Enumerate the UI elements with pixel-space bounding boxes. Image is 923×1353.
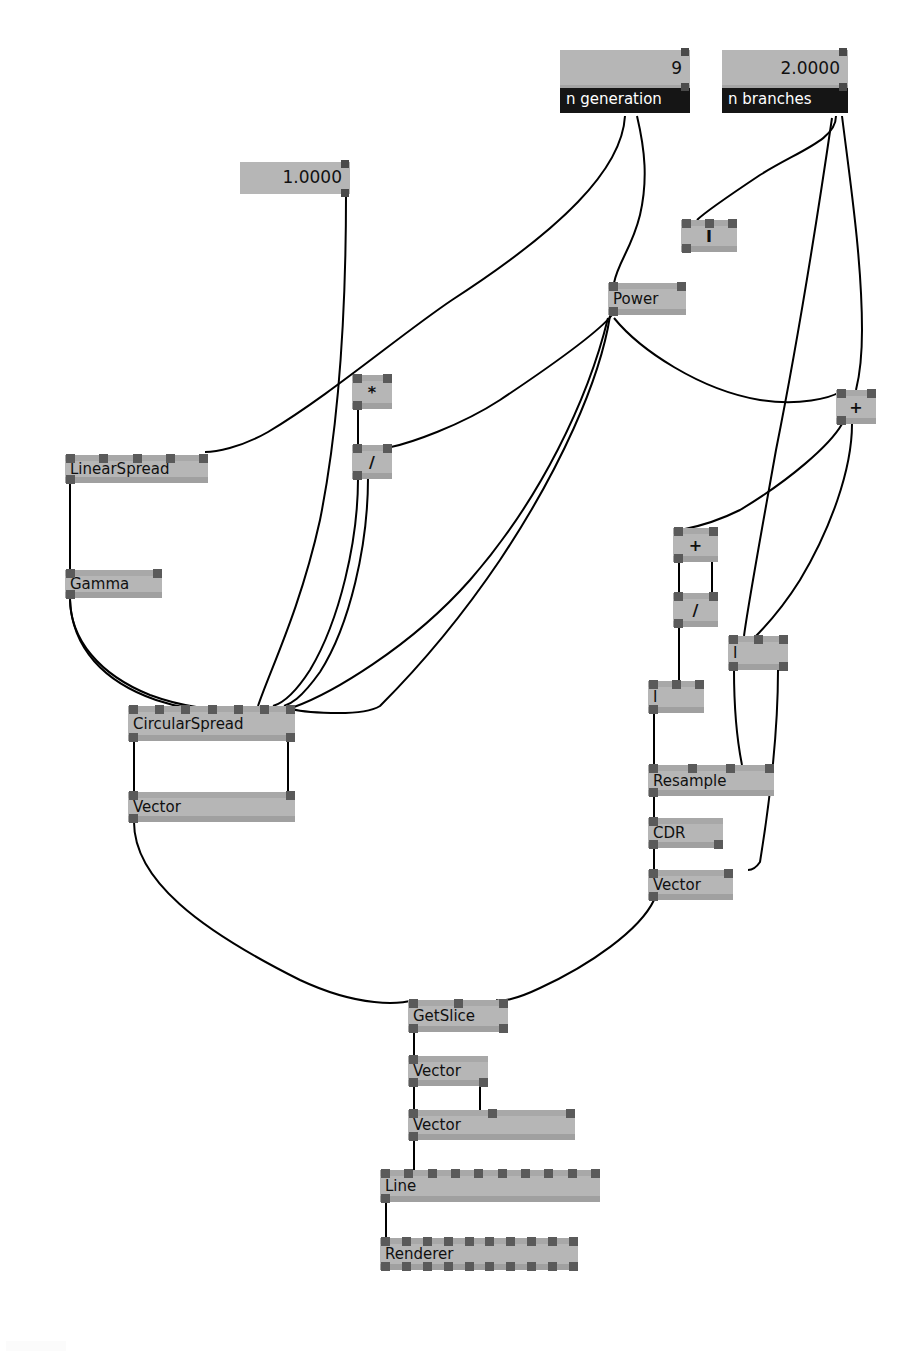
output-port[interactable] (409, 1078, 418, 1087)
parameter-value-field[interactable]: 2.0000 (722, 50, 848, 88)
wire[interactable] (288, 316, 610, 713)
node-i-right[interactable]: I (728, 636, 788, 670)
input-port[interactable] (153, 569, 162, 578)
output-port[interactable] (506, 1262, 515, 1271)
input-port[interactable] (353, 374, 362, 383)
wire[interactable] (734, 670, 742, 765)
node-circularspread[interactable]: CircularSpread (128, 706, 295, 741)
output-port[interactable] (499, 1024, 508, 1033)
wire[interactable] (273, 479, 358, 706)
input-port[interactable] (353, 444, 362, 453)
wire[interactable] (842, 116, 862, 390)
node-divide-mid[interactable]: / (673, 593, 718, 627)
input-port[interactable] (705, 219, 714, 228)
input-port[interactable] (649, 764, 658, 773)
input-port[interactable] (381, 1169, 390, 1178)
param-n-generation[interactable]: 9n generation (560, 50, 690, 113)
output-port[interactable] (479, 1078, 488, 1087)
input-port[interactable] (99, 454, 108, 463)
input-port[interactable] (181, 705, 190, 714)
input-port[interactable] (837, 389, 846, 398)
input-port[interactable] (428, 1169, 437, 1178)
output-port[interactable] (423, 1262, 432, 1271)
output-port[interactable] (649, 788, 658, 797)
input-port[interactable] (709, 527, 718, 536)
input-port[interactable] (726, 764, 735, 773)
input-port[interactable] (677, 282, 686, 291)
input-port[interactable] (682, 219, 691, 228)
input-port[interactable] (566, 1109, 575, 1118)
output-port[interactable] (381, 1262, 390, 1271)
input-port[interactable] (568, 1169, 577, 1178)
input-port[interactable] (451, 1169, 460, 1178)
input-port[interactable] (199, 454, 208, 463)
input-port[interactable] (672, 680, 681, 689)
input-port[interactable] (129, 705, 138, 714)
input-port[interactable] (234, 705, 243, 714)
node-power[interactable]: Power (608, 283, 686, 315)
input-port[interactable] (729, 635, 738, 644)
input-port[interactable] (409, 1055, 418, 1064)
input-port[interactable] (454, 999, 463, 1008)
input-port[interactable] (465, 1237, 474, 1246)
input-port[interactable] (754, 635, 763, 644)
output-port[interactable] (729, 662, 738, 671)
output-port[interactable] (674, 554, 683, 563)
node-plus-right[interactable]: + (836, 390, 876, 424)
input-port[interactable] (674, 592, 683, 601)
input-port[interactable] (498, 1169, 507, 1178)
wire[interactable] (414, 1086, 480, 1110)
input-port[interactable] (499, 999, 508, 1008)
input-port[interactable] (688, 764, 697, 773)
input-port[interactable] (341, 160, 349, 168)
input-port[interactable] (506, 1237, 515, 1246)
input-port[interactable] (474, 1169, 483, 1178)
input-port[interactable] (381, 1237, 390, 1246)
wire[interactable] (744, 118, 832, 636)
input-port[interactable] (155, 705, 164, 714)
output-port[interactable] (681, 83, 689, 91)
wire[interactable] (134, 741, 288, 792)
output-port[interactable] (837, 416, 846, 425)
wire[interactable] (391, 315, 612, 447)
input-port[interactable] (709, 592, 718, 601)
input-port[interactable] (765, 764, 774, 773)
node-gamma[interactable]: Gamma (65, 570, 162, 598)
wire[interactable] (70, 598, 232, 709)
node-graph-canvas[interactable]: IPower*/+LinearSpreadGamma+/IICircularSp… (0, 0, 923, 1353)
wire[interactable] (70, 600, 240, 711)
wire[interactable] (614, 318, 840, 402)
output-port[interactable] (649, 892, 658, 901)
output-port[interactable] (674, 619, 683, 628)
output-port[interactable] (286, 733, 295, 742)
input-port[interactable] (649, 817, 658, 826)
input-port[interactable] (728, 219, 737, 228)
input-port[interactable] (260, 705, 269, 714)
input-port[interactable] (867, 389, 876, 398)
input-port[interactable] (133, 454, 142, 463)
output-port[interactable] (353, 471, 362, 480)
node-i-top[interactable]: I (681, 220, 737, 252)
output-port[interactable] (129, 814, 138, 823)
node-vector-left[interactable]: Vector (128, 792, 295, 822)
wire[interactable] (134, 822, 414, 1003)
input-port[interactable] (409, 999, 418, 1008)
output-port[interactable] (381, 1194, 390, 1203)
input-port[interactable] (423, 1237, 432, 1246)
wire[interactable] (258, 196, 346, 706)
output-port[interactable] (485, 1262, 494, 1271)
input-port[interactable] (409, 1109, 418, 1118)
output-port[interactable] (465, 1262, 474, 1271)
output-port[interactable] (682, 244, 691, 253)
input-port[interactable] (548, 1237, 557, 1246)
output-port[interactable] (353, 401, 362, 410)
output-port[interactable] (444, 1262, 453, 1271)
output-port[interactable] (714, 840, 723, 849)
node-vector-right[interactable]: Vector (648, 870, 733, 900)
input-port[interactable] (609, 282, 618, 291)
node-vector-a[interactable]: Vector (408, 1056, 488, 1086)
input-port[interactable] (681, 48, 689, 56)
wire[interactable] (294, 318, 608, 707)
input-port[interactable] (527, 1237, 536, 1246)
parameter-value-field[interactable]: 9 (560, 50, 690, 88)
